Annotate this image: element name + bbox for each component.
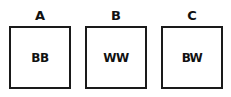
panel-content: WW — [103, 51, 128, 65]
panel-box: WW — [85, 26, 147, 89]
panel-a: A BB — [9, 0, 71, 97]
panel-box: BB — [9, 26, 71, 89]
panel-box: BW — [161, 26, 223, 89]
panel-content: BW — [182, 51, 203, 65]
panel-content: BB — [31, 51, 48, 65]
panel-label: C — [161, 9, 223, 23]
panel-c: C BW — [161, 0, 223, 97]
panel-b: B WW — [85, 0, 147, 97]
panel-label: B — [85, 9, 147, 23]
panel-label: A — [9, 9, 71, 23]
